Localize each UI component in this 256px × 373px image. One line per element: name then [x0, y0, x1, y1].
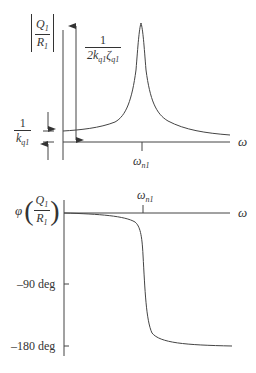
bode-diagram [0, 0, 256, 373]
wn-label-magnitude: ωn1 [133, 154, 149, 170]
magnitude-plot [43, 23, 230, 160]
magnitude-y-label: Q1 R1 [31, 14, 54, 52]
phase-y-label: φ ( Q1 R1 ) [15, 194, 60, 228]
phase-curve [64, 213, 232, 346]
dc-gain-label: 1 kq1 [14, 113, 31, 147]
wn-label-phase: ωn1 [137, 188, 153, 204]
tick-label-180: –180 deg [11, 339, 55, 354]
phase-plot [64, 200, 232, 356]
magnitude-x-axis-label: ω [238, 134, 247, 150]
tick-label-90: –90 deg [17, 277, 55, 292]
phase-x-axis-label: ω [238, 205, 247, 221]
peak-amplitude-label: 1 2kq1ζq1 [85, 30, 121, 64]
